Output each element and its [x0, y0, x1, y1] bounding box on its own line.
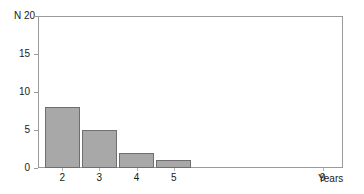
x-tick-mark — [137, 168, 138, 171]
y-tick-label: 15 — [4, 49, 30, 59]
x-tick-mark — [323, 168, 324, 171]
bar — [82, 130, 117, 168]
y-tick-mark — [34, 54, 38, 55]
x-tick-label: 3 — [87, 172, 111, 183]
x-tick-label: 5 — [162, 172, 186, 183]
y-axis-label: N 20 — [14, 11, 35, 21]
y-tick-label: 5 — [4, 125, 30, 135]
x-tick-label: 4 — [125, 172, 149, 183]
y-tick-mark — [34, 168, 38, 169]
x-tick-mark — [99, 168, 100, 171]
y-tick-mark — [34, 16, 38, 17]
y-tick-label: 10 — [4, 87, 30, 97]
bar — [119, 153, 154, 168]
bar — [156, 160, 191, 168]
x-tick-mark — [62, 168, 63, 171]
x-tick-label: 2 — [50, 172, 74, 183]
y-tick-label: 0 — [4, 163, 30, 173]
y-tick-mark — [34, 92, 38, 93]
y-tick-mark — [34, 130, 38, 131]
bar — [45, 107, 80, 168]
x-axis-title: Years — [318, 173, 343, 184]
x-tick-mark — [174, 168, 175, 171]
bar-chart: N 20 151050 23459 Years — [0, 0, 364, 194]
